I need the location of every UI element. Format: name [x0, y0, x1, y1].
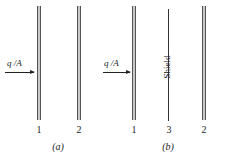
- plate-2-a: [77, 6, 81, 120]
- heat-flux-arrow-icon: [103, 72, 130, 73]
- plate-1-a: [37, 6, 41, 120]
- plate-1-b: [132, 6, 136, 120]
- shield-label: Shield: [162, 52, 172, 82]
- plate-2-label-b: 2: [198, 124, 210, 136]
- caption-b: (b): [158, 141, 178, 153]
- shield-3-label: 3: [163, 124, 175, 136]
- plate-1-label-a: 1: [33, 124, 45, 136]
- plate-2-label-a: 2: [73, 124, 85, 136]
- plate-2-b: [202, 6, 206, 120]
- plate-1-label-b: 1: [128, 124, 140, 136]
- caption-a: (a): [48, 141, 68, 153]
- heat-flux-label-b: q /A: [104, 58, 119, 68]
- heat-flux-arrow-icon: [5, 72, 34, 73]
- heat-flux-label-a: q /A: [7, 58, 22, 68]
